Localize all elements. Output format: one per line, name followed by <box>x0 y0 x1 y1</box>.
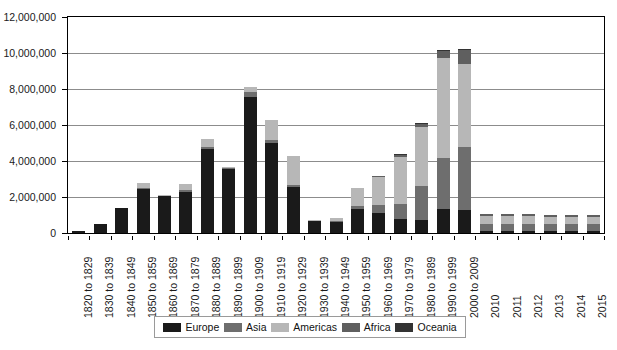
x-tick-label: 1940 to 1949 <box>340 257 351 318</box>
x-tick-label: 1970 to 1979 <box>404 257 415 318</box>
x-tick-label: 1920 to 1929 <box>297 257 308 318</box>
legend-item-americas[interactable]: Americas <box>271 322 337 333</box>
bar-segment-americas <box>565 217 578 224</box>
bar-group[interactable] <box>437 50 450 233</box>
bar-segment-americas <box>287 156 300 185</box>
legend-item-africa[interactable]: Africa <box>342 322 391 333</box>
y-tick-label: 6,000,000 <box>9 120 56 131</box>
bar-segment-europe <box>201 149 214 233</box>
y-tick-label: 2,000,000 <box>9 192 56 203</box>
bars-layer <box>68 17 604 233</box>
bar-segment-asia <box>458 147 471 210</box>
x-tick-mark <box>132 236 133 240</box>
bar-group[interactable] <box>372 176 385 233</box>
x-tick-mark <box>261 236 262 240</box>
bar-segment-asia <box>522 224 535 232</box>
bar-segment-africa <box>437 51 450 58</box>
x-tick-label: 1830 to 1839 <box>104 257 115 318</box>
bar-group[interactable] <box>458 49 471 233</box>
bar-group[interactable] <box>415 123 428 233</box>
x-tick-label: 2013 <box>554 295 565 318</box>
x-tick-mark <box>454 236 455 240</box>
x-tick-mark <box>240 236 241 240</box>
bar-group[interactable] <box>244 87 257 233</box>
x-tick-mark <box>304 236 305 240</box>
bar-group[interactable] <box>137 183 150 233</box>
x-tick-mark <box>154 236 155 240</box>
bar-segment-europe <box>480 231 493 233</box>
legend-swatch-oceania-icon <box>395 323 413 332</box>
bar-segment-asia <box>544 224 557 231</box>
bar-group[interactable] <box>265 120 278 233</box>
bar-segment-europe <box>115 208 128 233</box>
x-tick-mark <box>111 236 112 240</box>
x-tick-mark <box>68 236 69 240</box>
bar-group[interactable] <box>522 214 535 233</box>
bar-group[interactable] <box>394 154 407 233</box>
y-tick-label: 4,000,000 <box>9 156 56 167</box>
bar-segment-europe <box>522 231 535 233</box>
bar-group[interactable] <box>94 224 107 233</box>
x-tick-label: 2014 <box>576 295 587 318</box>
legend-item-europe[interactable]: Europe <box>163 322 219 333</box>
bar-group[interactable] <box>201 139 214 233</box>
bar-segment-europe <box>437 209 450 233</box>
bar-segment-europe <box>587 231 600 233</box>
x-tick-label: 1880 to 1889 <box>211 257 222 318</box>
bar-segment-americas <box>480 216 493 224</box>
x-tick-label: 1960 to 1969 <box>383 257 394 318</box>
bar-segment-europe <box>351 209 364 233</box>
bar-group[interactable] <box>480 214 493 233</box>
bar-group[interactable] <box>308 220 321 233</box>
y-tick-label: 0 <box>50 228 56 239</box>
bar-segment-americas <box>201 139 214 147</box>
bar-segment-africa <box>458 50 471 64</box>
y-tick-label: 10,000,000 <box>3 48 56 59</box>
legend-item-oceania[interactable]: Oceania <box>395 322 456 333</box>
x-tick-mark <box>432 236 433 240</box>
bar-segment-asia <box>394 204 407 219</box>
bar-group[interactable] <box>351 188 364 233</box>
legend-label: Americas <box>293 322 337 333</box>
bar-segment-asia <box>437 158 450 210</box>
x-tick-label: 2000 to 2009 <box>469 257 480 318</box>
bar-segment-asia <box>565 224 578 232</box>
bar-segment-europe <box>94 224 107 233</box>
bar-group[interactable] <box>158 195 171 233</box>
bar-group[interactable] <box>179 184 192 233</box>
legend-item-asia[interactable]: Asia <box>224 322 266 333</box>
x-tick-label: 1930 to 1939 <box>319 257 330 318</box>
x-tick-label: 1850 to 1859 <box>147 257 158 318</box>
bar-group[interactable] <box>287 156 300 233</box>
y-axis: 02,000,0004,000,0006,000,0008,000,00010,… <box>0 0 64 350</box>
bar-segment-europe <box>458 210 471 233</box>
bar-group[interactable] <box>330 218 343 233</box>
bar-segment-asia <box>480 224 493 232</box>
bar-segment-europe <box>158 196 171 233</box>
bar-segment-europe <box>287 187 300 233</box>
y-tick-label: 12,000,000 <box>3 12 56 23</box>
bar-group[interactable] <box>501 214 514 233</box>
legend-swatch-asia-icon <box>224 323 242 332</box>
bar-group[interactable] <box>72 231 85 233</box>
bar-group[interactable] <box>587 215 600 233</box>
x-tick-mark <box>497 236 498 240</box>
x-tick-mark <box>540 236 541 240</box>
bar-segment-americas <box>522 216 535 224</box>
bar-group[interactable] <box>115 208 128 233</box>
x-axis: 1820 to 18291830 to 18391840 to 18491850… <box>68 236 604 324</box>
bar-segment-americas <box>415 127 428 186</box>
x-tick-mark <box>347 236 348 240</box>
x-tick-label: 1860 to 1869 <box>168 257 179 318</box>
x-tick-mark <box>197 236 198 240</box>
bar-group[interactable] <box>544 215 557 233</box>
x-tick-label: 1840 to 1849 <box>126 257 137 318</box>
bar-segment-americas <box>587 217 600 224</box>
x-tick-mark <box>89 236 90 240</box>
x-tick-label: 2011 <box>512 295 523 318</box>
bar-segment-europe <box>394 219 407 233</box>
bar-group[interactable] <box>565 215 578 233</box>
bar-group[interactable] <box>222 167 235 233</box>
x-tick-mark <box>411 236 412 240</box>
bar-segment-asia <box>587 224 600 232</box>
